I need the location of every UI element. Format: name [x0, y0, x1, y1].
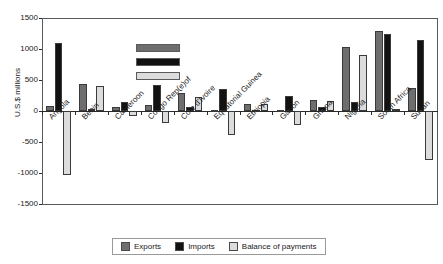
x-tick-mark	[305, 111, 306, 115]
inner-legend-swatch-1	[136, 58, 180, 66]
inner-legend-swatch-2	[136, 72, 180, 80]
x-tick-mark	[371, 111, 372, 115]
plot-border-bottom	[42, 204, 438, 205]
bar-balance-of-payments-gabon	[294, 111, 302, 125]
x-tick-mark	[75, 111, 76, 115]
chart-figure: U.S.$ millions 150010005000-500-1000-150…	[0, 0, 443, 264]
legend-swatch-icon	[229, 242, 238, 251]
y-tick-label: -1500	[6, 200, 38, 208]
bar-balance-of-payments-cameroon	[129, 111, 137, 116]
bar-balance-of-payments-sudan	[425, 111, 433, 160]
y-tick-label: 0	[6, 107, 38, 115]
legend-swatch-icon	[121, 242, 130, 251]
x-tick-mark	[42, 111, 43, 115]
x-tick-mark	[108, 111, 109, 115]
x-tick-mark	[141, 111, 142, 115]
legend-item-imports: Imports	[175, 242, 215, 251]
x-tick-mark	[207, 111, 208, 115]
inner-legend-swatches	[136, 44, 180, 86]
legend-item-balance-of-payments: Balance of payments	[229, 242, 317, 251]
chart-legend: ExportsImportsBalance of payments	[112, 238, 326, 255]
y-tick-label: 1000	[6, 45, 38, 53]
legend-label: Exports	[134, 242, 161, 251]
y-axis-title: U.S.$ millions	[13, 43, 22, 143]
bar-balance-of-payments-congo-rep-e-of	[162, 111, 170, 123]
plot-border-top	[42, 18, 438, 19]
y-tick-label: 1500	[6, 14, 38, 22]
legend-label: Balance of payments	[242, 242, 317, 251]
legend-item-exports: Exports	[121, 242, 161, 251]
bar-balance-of-payments-equatorial-guinea	[228, 111, 236, 135]
y-tick-label: -1000	[6, 169, 38, 177]
y-tick-label: -500	[6, 138, 38, 146]
x-category-label: Cameroon	[113, 89, 146, 122]
x-tick-mark	[240, 111, 241, 115]
bar-exports-benin	[79, 84, 87, 111]
x-tick-mark	[174, 111, 175, 115]
bar-exports-south-africa	[375, 31, 383, 111]
y-tick-label: 500	[6, 76, 38, 84]
inner-legend-swatch-0	[136, 44, 180, 52]
legend-swatch-icon	[175, 242, 184, 251]
bar-balance-of-payments-angola	[63, 111, 71, 175]
x-tick-mark	[404, 111, 405, 115]
bar-exports-nigeria	[342, 47, 350, 111]
x-tick-mark	[272, 111, 273, 115]
x-tick-mark	[338, 111, 339, 115]
legend-label: Imports	[188, 242, 215, 251]
